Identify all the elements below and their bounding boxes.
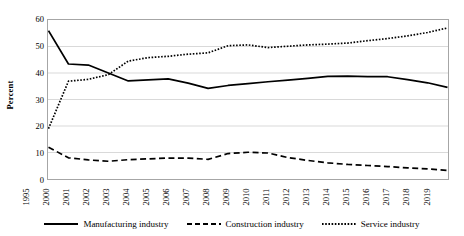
legend-label: Service industry [361, 219, 420, 229]
series-line-0 [48, 31, 447, 89]
x-axis-tick-label: 2019 [444, 181, 454, 213]
legend-item[interactable]: Service industry [322, 219, 420, 229]
x-axis-tick-labels: 1995200020012002200320042005200620072008… [47, 181, 449, 215]
x-axis-tick-label-text: 2007 [181, 181, 191, 213]
legend-label: Construction industry [226, 219, 304, 229]
x-axis-tick-label-text: 2015 [341, 181, 351, 213]
x-axis-tick-label-text: 2014 [321, 181, 331, 213]
legend-swatch-dashed [187, 220, 221, 228]
x-axis-tick-label-text: 2010 [241, 181, 251, 213]
y-axis-tick-label: 10 [18, 149, 44, 158]
y-axis-title-text: Percent [5, 80, 15, 109]
x-axis-tick-label-text: 2008 [201, 181, 211, 213]
x-axis-tick-label-text: 2019 [422, 181, 432, 213]
y-axis-tick-label: 50 [18, 42, 44, 51]
x-axis-tick-label-text: 2012 [281, 181, 291, 213]
x-axis-tick-label-text: 2009 [221, 181, 231, 213]
legend-label: Manufacturing industry [83, 219, 168, 229]
chart-legend: Manufacturing industryConstruction indus… [0, 214, 464, 234]
x-axis-tick-label-text: 2004 [121, 181, 131, 213]
x-axis-tick-label-text: 2018 [401, 181, 411, 213]
legend-item[interactable]: Manufacturing industry [44, 219, 168, 229]
y-axis-tick-label: 20 [18, 122, 44, 131]
x-axis-tick-label-text: 2001 [61, 181, 71, 213]
x-axis-tick-label-text: 2011 [261, 181, 271, 213]
y-axis-tick-label: 30 [18, 95, 44, 104]
series-line-2 [48, 28, 447, 129]
line-chart-figure: Percent 0102030405060 199520002001200220… [0, 0, 464, 236]
x-axis-tick-label-text: 2013 [301, 181, 311, 213]
y-axis-tick-label: 60 [18, 15, 44, 24]
legend-swatch-dotted [322, 220, 356, 228]
x-axis-tick-label-text: 2016 [361, 181, 371, 213]
legend-item[interactable]: Construction industry [187, 219, 304, 229]
y-axis-tick-label: 40 [18, 68, 44, 77]
x-axis-tick-label-text: 2006 [161, 181, 171, 213]
y-axis-title: Percent [2, 0, 18, 190]
plot-area [47, 19, 449, 180]
x-axis-tick-label-text: 2005 [141, 181, 151, 213]
series-canvas [48, 20, 448, 179]
x-axis-tick-label-text: 2003 [101, 181, 111, 213]
x-axis-tick-label-text: 1995 [21, 181, 31, 213]
x-axis-tick-label-text: 2000 [41, 181, 51, 213]
x-axis-tick-label-text: 2017 [381, 181, 391, 213]
series-line-1 [48, 147, 447, 170]
legend-swatch-solid [44, 220, 78, 228]
x-axis-tick-label-text: 2002 [81, 181, 91, 213]
